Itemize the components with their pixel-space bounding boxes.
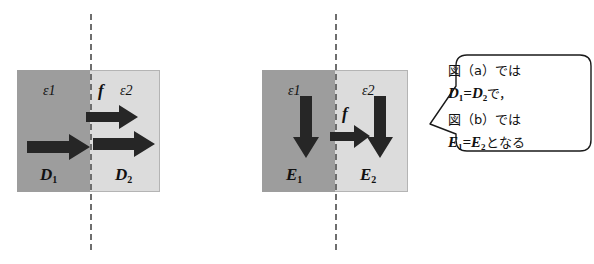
panel-a-flux-label: f (98, 82, 104, 99)
panel-b-e2-arrow (366, 96, 394, 158)
panel-a-d2-label: D2 (115, 166, 132, 185)
panel-a-d2-arrow (93, 130, 155, 158)
callout-line-2: D1=D2で， (448, 82, 594, 109)
callout-line-1: 図（a）では (448, 60, 594, 82)
callout-line-2-tail: で， (487, 86, 512, 101)
panel-a-flux-arrow (86, 104, 138, 130)
panel-b-e2-label: E2 (360, 166, 376, 185)
panel-a-epsilon-2-label: ε2 (120, 84, 133, 98)
callout-text-block: 図（a）では D1=D2で， 図（b）では E1=E2となる (448, 60, 594, 158)
callout-d2: D (472, 85, 483, 101)
callout-eq-1: = (463, 85, 472, 101)
panel-b-flux-label: f (342, 105, 348, 122)
callout-e1: E (448, 134, 458, 150)
panel-a-d1-label: D1 (40, 166, 57, 185)
callout-balloon: 図（a）では D1=D2で， 図（b）では E1=E2となる (428, 52, 594, 154)
panel-a-epsilon-1-label: ε1 (43, 84, 56, 98)
panel-a-interface-line (90, 14, 92, 250)
callout-d1: D (448, 85, 459, 101)
panel-b-e1-label: E1 (286, 166, 302, 185)
callout-line-4-tail: となる (486, 135, 525, 150)
callout-line-4: E1=E2となる (448, 131, 594, 158)
callout-eq-2: = (463, 134, 472, 150)
panel-a-d1-arrow (27, 133, 90, 161)
callout-e2: E (471, 134, 481, 150)
callout-line-3: 図（b）では (448, 109, 594, 131)
physics-figure: ε1 f ε2 D1 D2 (0, 0, 594, 264)
panel-b-e1-arrow (292, 96, 320, 158)
panel-b-flux-arrow (330, 124, 370, 149)
